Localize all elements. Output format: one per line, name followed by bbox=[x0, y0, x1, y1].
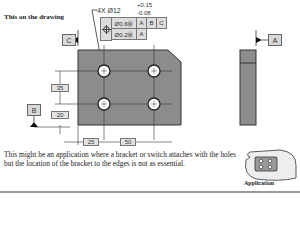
dim-50: 50 bbox=[120, 138, 136, 146]
description-paragraph: This might be an application where a bra… bbox=[4, 150, 236, 169]
dim-35: 35 bbox=[51, 84, 69, 92]
datum-c: C bbox=[62, 34, 76, 46]
dim-20: 20 bbox=[51, 111, 69, 119]
bottom-rule bbox=[0, 191, 300, 193]
datum-b: B bbox=[27, 104, 41, 116]
dim-25: 25 bbox=[83, 138, 99, 146]
application-label: Application bbox=[244, 180, 274, 186]
datum-a: A bbox=[268, 34, 282, 46]
